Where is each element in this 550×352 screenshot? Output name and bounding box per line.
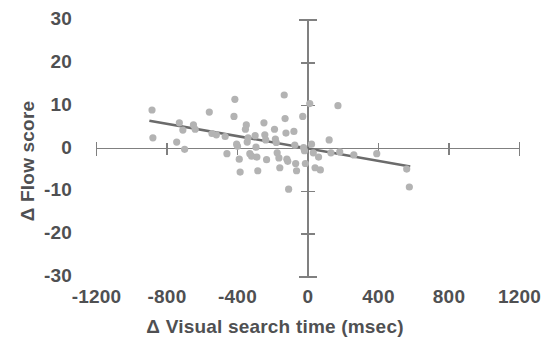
scatter-point — [373, 150, 380, 157]
scatter-point — [173, 138, 180, 145]
scatter-point — [326, 136, 333, 143]
scatter-point — [260, 119, 267, 126]
scatter-point — [179, 127, 186, 134]
scatter-point — [292, 160, 299, 167]
scatter-point — [336, 148, 343, 155]
x-tick-label: -1200 — [57, 286, 137, 308]
scatter-point — [284, 158, 291, 165]
scatter-point — [282, 129, 289, 136]
scatter-point — [291, 141, 298, 148]
scatter-point — [181, 146, 188, 153]
scatter-point — [281, 115, 288, 122]
scatter-point — [281, 91, 288, 98]
y-tick-label: -30 — [10, 265, 72, 287]
scatter-point — [301, 147, 308, 154]
scatter-point — [293, 167, 300, 174]
scatter-point — [271, 126, 278, 133]
scatter-point — [148, 106, 155, 113]
scatter-point — [273, 139, 280, 146]
scatter-point — [222, 133, 229, 140]
scatter-point — [237, 168, 244, 175]
scatter-point — [254, 167, 261, 174]
scatter-point — [206, 109, 213, 116]
scatter-point — [234, 143, 241, 150]
y-tick-label: 20 — [10, 51, 72, 73]
scatter-point — [231, 96, 238, 103]
scatter-point — [334, 102, 341, 109]
scatter-point — [350, 151, 357, 158]
scatter-point — [176, 119, 183, 126]
scatter-point — [327, 149, 334, 156]
x-tick-label: -400 — [198, 286, 278, 308]
scatter-point — [263, 156, 270, 163]
x-tick-label: 400 — [339, 286, 419, 308]
scatter-point — [285, 186, 292, 193]
scatter-point — [406, 183, 413, 190]
scatter-point — [223, 150, 230, 157]
scatter-point — [403, 165, 410, 172]
scatter-point — [262, 136, 269, 143]
scatter-point — [275, 154, 282, 161]
scatter-point — [302, 160, 309, 167]
scatter-points — [148, 91, 413, 192]
x-tick-label: -800 — [127, 286, 207, 308]
x-axis-title: Δ Visual search time (msec) — [0, 316, 550, 338]
scatter-point — [252, 132, 259, 139]
scatter-point — [276, 164, 283, 171]
x-tick-label: 800 — [409, 286, 489, 308]
scatter-point — [230, 113, 237, 120]
scatter-point — [244, 134, 251, 141]
y-axis-title: Δ Flow score — [17, 71, 39, 251]
x-tick-label: 0 — [268, 286, 348, 308]
scatter-chart-figure: 3020100-10-20-30 -1200-800-4000400800120… — [0, 0, 550, 352]
scatter-point — [317, 166, 324, 173]
scatter-point — [243, 121, 250, 128]
y-tick-label: 30 — [10, 8, 72, 30]
x-tick-label: 1200 — [480, 286, 550, 308]
scatter-point — [252, 144, 259, 151]
scatter-point — [308, 141, 315, 148]
scatter-point — [192, 126, 199, 133]
scatter-point — [290, 128, 297, 135]
scatter-point — [299, 113, 306, 120]
scatter-point — [306, 100, 313, 107]
scatter-point — [236, 156, 243, 163]
scatter-point — [213, 131, 220, 138]
scatter-point — [315, 153, 322, 160]
scatter-point — [253, 153, 260, 160]
scatter-point — [149, 134, 156, 141]
